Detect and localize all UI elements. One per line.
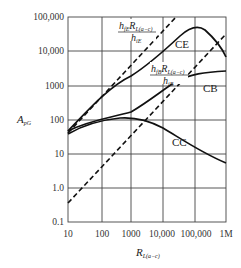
y-tick: 0.1 — [52, 217, 64, 227]
x-tick: 100 — [95, 229, 110, 239]
y-tick: 100 — [50, 115, 65, 125]
x-tick: 10 — [63, 229, 73, 239]
ce-label: CE — [175, 38, 189, 50]
y-tick: 1000 — [45, 81, 64, 91]
y-axis-ticks: 100,000 10,000 1000 100 10 1.0 0.1 — [33, 12, 64, 227]
plot-curves — [68, 17, 226, 203]
ce-curve — [68, 27, 226, 131]
gain-chart: 100,000 10,000 1000 100 10 1.0 0.1 10 10… — [0, 0, 241, 268]
x-tick: 1000 — [122, 229, 141, 239]
hfb-dashed-line — [68, 34, 226, 203]
x-tick: 100,000 — [181, 229, 212, 239]
x-axis-label: RL(a−c) — [135, 246, 160, 260]
y-tick: 1.0 — [52, 183, 64, 193]
hfe-annotation: hfERL(a−c) hiE — [118, 19, 156, 44]
y-tick: 10 — [55, 149, 65, 159]
cc-curve — [68, 118, 226, 163]
cb-label: CB — [203, 82, 218, 94]
cc-label: CC — [172, 136, 187, 148]
y-tick: 100,000 — [33, 12, 64, 22]
y-tick: 10,000 — [38, 46, 64, 56]
y-axis-label: ApG — [16, 113, 32, 126]
x-tick: 1M — [219, 229, 233, 239]
hfb-annotation: hfBRL(a−c) hiB — [150, 62, 188, 87]
x-tick: 10,000 — [149, 229, 175, 239]
x-axis-ticks: 10 100 1000 10,000 100,000 1M — [63, 229, 233, 239]
